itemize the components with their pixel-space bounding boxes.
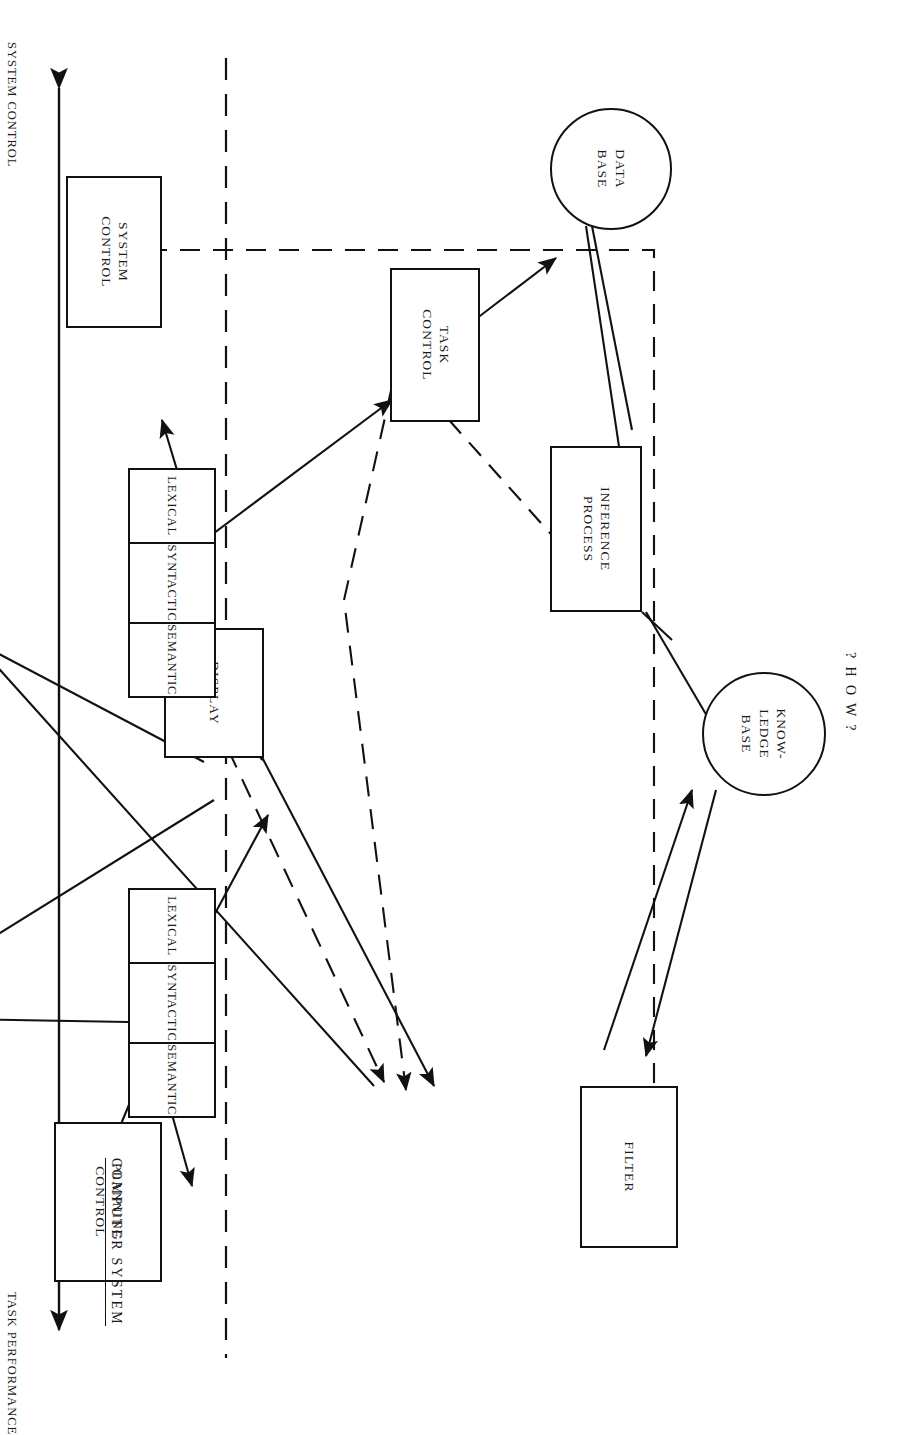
node-inference-process-line2: PROCESS [579,496,596,562]
node-knowledge-base-line3: BASE [738,715,756,754]
node-task-control-line2: CONTROL [418,309,435,380]
node-task-control-line1: TASK [435,326,452,365]
edge-plan-to-perf-cross [0,1018,128,1022]
axis-label-end: TASK PERFORMANCE [4,1292,20,1435]
node-knowledge-base[interactable]: KNOW- LEDGE BASE [702,672,826,796]
edge-inference-top-stub [642,612,672,640]
node-task-control[interactable]: TASK CONTROL [390,268,480,422]
edge-database-to-inference [592,226,632,430]
axis-label-start-line2: CONTROL [5,101,19,167]
node-inference-process[interactable]: INFERENCE PROCESS [550,446,642,612]
caption-computer-system: COMPUTER SYSTEM [105,1158,124,1326]
node-system-control-line2: CONTROL [97,216,114,287]
node-knowledge-base-line1: KNOW- [773,708,791,759]
layer-stack-computer-output[interactable]: LEXICAL SYNTACTIC SEMANTIC [128,468,216,698]
node-filter-line1: FILTER [621,1141,638,1192]
edge-filter-to-knowledge [604,790,692,1050]
node-data-base-line1: DATA [611,149,629,188]
node-data-base[interactable]: DATA BASE [550,108,672,230]
layer-stack-man-planning[interactable]: LEXICAL SYNTACTIC SEMANTIC [128,888,216,1118]
edge-task-control-to-filter [344,355,406,1090]
node-system-control[interactable]: SYSTEM CONTROL [66,176,162,328]
edge-knowledge-to-filter [646,790,716,1056]
layer-cell-lexical[interactable]: LEXICAL [130,470,214,544]
layer-cell-semantic[interactable]: SEMANTIC [130,1044,214,1116]
layer-cell-lexical[interactable]: LEXICAL [130,890,214,964]
axis-label-start: SYSTEM CONTROL [4,42,20,167]
node-filter[interactable]: FILTER [580,1086,678,1248]
layer-cell-syntactic[interactable]: SYNTACTIC [130,964,214,1043]
edge-task-control-to-database [472,258,556,322]
node-knowledge-base-line2: LEDGE [755,709,773,759]
layer-cell-semantic[interactable]: SEMANTIC [130,624,214,696]
layer-cell-syntactic[interactable]: SYNTACTIC [130,544,214,623]
axis-label-end-line1: TASK [5,1292,19,1328]
axis-label-start-line1: SYSTEM [5,42,19,97]
node-data-base-line2: BASE [593,150,611,189]
label-how: ? H O W ? [842,652,858,733]
node-inference-process-line1: INFERENCE [596,487,613,571]
node-system-control-line1: SYSTEM [114,222,131,282]
axis-label-end-line2: PERFORMANCE [5,1332,19,1435]
